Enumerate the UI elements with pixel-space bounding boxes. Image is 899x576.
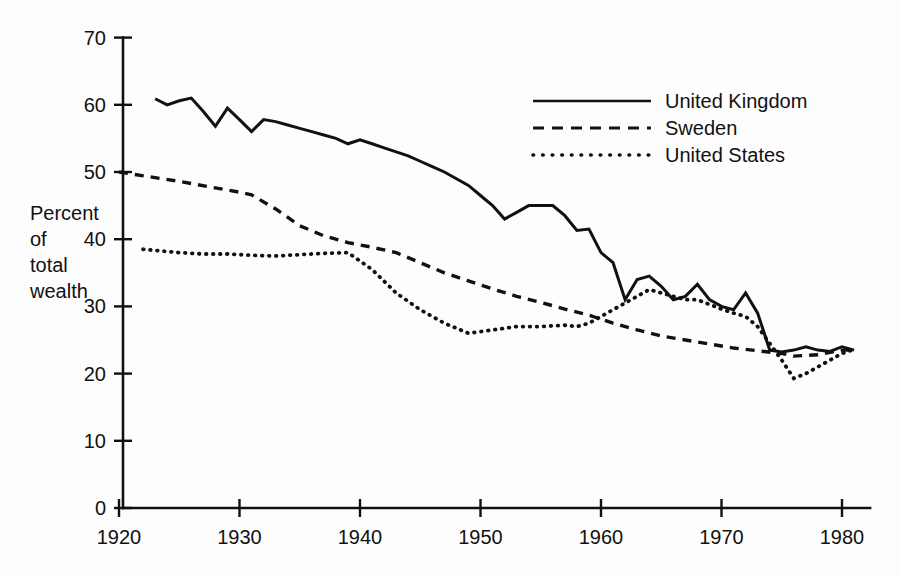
x-tick-label: 1920 [97,526,142,548]
chart-container: 010203040506070 192019301940195019601970… [0,0,899,576]
y-tick-label: 10 [84,430,106,452]
y-tick-label: 60 [84,94,106,116]
y-tick-label: 40 [84,228,106,250]
legend-label-united-states: United States [665,144,785,166]
y-axis-label-line: wealth [29,280,88,302]
wealth-share-line-chart: 010203040506070 192019301940195019601970… [0,0,899,576]
y-tick-label: 50 [84,161,106,183]
y-axis-label-line: total [30,254,68,276]
legend-label-sweden: Sweden [665,117,737,139]
y-axis-label-line: Percent [30,202,99,224]
y-axis-label-line: of [30,228,47,250]
x-tick-label: 1940 [338,526,383,548]
y-tick-label: 0 [95,497,106,519]
x-tick-label: 1950 [458,526,503,548]
y-tick-label: 70 [84,27,106,49]
x-tick-label: 1960 [579,526,624,548]
x-tick-label: 1980 [820,526,865,548]
legend-label-united-kingdom: United Kingdom [665,90,807,112]
chart-background [0,0,899,576]
y-tick-label: 20 [84,363,106,385]
x-tick-label: 1930 [217,526,262,548]
x-tick-label: 1970 [699,526,744,548]
